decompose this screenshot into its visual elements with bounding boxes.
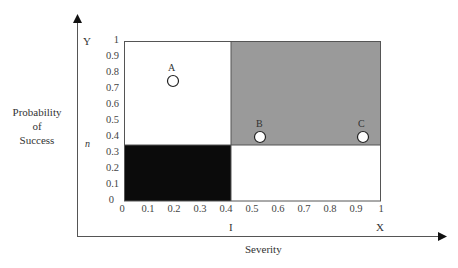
y-tick-0.5: 0.5 <box>95 114 119 125</box>
x-tick-0.9: 0.9 <box>344 203 368 214</box>
point-a-label: A <box>168 62 175 73</box>
y-tick-0.7: 0.7 <box>95 82 119 93</box>
x-tick-0.3: 0.3 <box>188 203 212 214</box>
x-tick-0.7: 0.7 <box>292 203 316 214</box>
x-tick-0: 0 <box>110 203 134 214</box>
x-axis-letter: X <box>376 221 384 233</box>
point-b-label: B <box>256 118 263 129</box>
x-axis-arrow-icon <box>438 232 447 241</box>
x-tick-0.5: 0.5 <box>240 203 264 214</box>
point-a <box>168 76 179 87</box>
y-axis-title-line-3: Success <box>6 133 68 147</box>
x-tick-0.1: 0.1 <box>136 203 160 214</box>
x-tick-0.4: 0.4 <box>214 203 238 214</box>
x-axis-title: Severity <box>245 243 282 255</box>
y-axis-letter: Y <box>83 35 91 47</box>
x-tick-0.8: 0.8 <box>318 203 342 214</box>
x-tick-1: 1 <box>369 203 393 214</box>
y-tick-1: 1 <box>95 34 119 45</box>
y-tick-0.6: 0.6 <box>95 98 119 109</box>
y-tick-0.2: 0.2 <box>95 162 119 173</box>
x-tick-0.6: 0.6 <box>266 203 290 214</box>
point-b <box>255 132 266 143</box>
y-tick-0.4: 0.4 <box>95 130 119 141</box>
x-tick-0.2: 0.2 <box>162 203 186 214</box>
y-tick-0.8: 0.8 <box>95 66 119 77</box>
y-axis-arrow-icon <box>73 14 82 23</box>
y-axis-title-line-2: of <box>6 119 68 133</box>
y-tick-0.3: 0.3 <box>95 146 119 157</box>
y-axis-title: Probability of Success <box>6 105 68 147</box>
point-c-label: C <box>358 118 365 129</box>
y-tick-0.1: 0.1 <box>95 178 119 189</box>
gray-region <box>231 41 381 145</box>
x-threshold-marker: I <box>229 221 233 233</box>
black-region <box>124 145 231 201</box>
point-c <box>358 132 369 143</box>
y-axis-title-line-1: Probability <box>6 105 68 119</box>
y-threshold-marker: n <box>85 138 90 149</box>
y-tick-0.9: 0.9 <box>95 50 119 61</box>
